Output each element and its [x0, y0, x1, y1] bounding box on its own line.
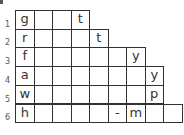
grid-cell[interactable] [108, 85, 128, 105]
grid-cell[interactable] [71, 29, 91, 49]
grid-cell[interactable]: g [15, 10, 35, 30]
grid-cell[interactable]: w [15, 85, 35, 105]
grid-cell[interactable] [52, 104, 72, 124]
grid-cell[interactable] [34, 10, 54, 30]
row-number-label: 1 [0, 20, 10, 29]
grid-cell[interactable] [52, 47, 72, 67]
grid-cell[interactable] [71, 66, 91, 86]
row-number-label: 4 [0, 76, 10, 85]
grid-cell[interactable]: p [145, 85, 165, 105]
grid-cell[interactable]: m [126, 104, 146, 124]
grid-cell[interactable] [34, 66, 54, 86]
grid-cell[interactable] [126, 85, 146, 105]
grid-cell[interactable] [52, 85, 72, 105]
grid-cell[interactable] [34, 104, 54, 124]
grid-cell[interactable] [34, 47, 54, 67]
grid-cell[interactable]: h [15, 104, 35, 124]
grid-cell[interactable] [89, 47, 109, 67]
corner-fragment [0, 0, 3, 4]
grid-cell[interactable] [52, 10, 72, 30]
row-number-label: 6 [0, 113, 10, 122]
grid-cell[interactable] [52, 66, 72, 86]
grid-cell[interactable]: t [71, 10, 91, 30]
grid-cell[interactable] [108, 47, 128, 67]
grid-cell[interactable]: r [15, 29, 35, 49]
grid-cell[interactable]: y [145, 66, 165, 86]
grid-cell[interactable] [89, 66, 109, 86]
grid-cell[interactable] [126, 66, 146, 86]
grid-cell[interactable] [108, 66, 128, 86]
grid-cell[interactable] [89, 85, 109, 105]
row-number-label: 3 [0, 57, 10, 66]
grid-cell[interactable]: t [89, 29, 109, 49]
grid-cell[interactable]: a [15, 66, 35, 86]
row-number-label: 2 [0, 38, 10, 47]
grid-cell[interactable] [52, 29, 72, 49]
grid-cell[interactable] [145, 104, 165, 124]
row-number-label: 5 [0, 95, 10, 104]
grid-cell[interactable] [71, 85, 91, 105]
grid-cell[interactable]: - [108, 104, 128, 124]
grid-cell[interactable]: y [126, 47, 146, 67]
grid-cell[interactable] [34, 85, 54, 105]
grid-cell[interactable] [71, 104, 91, 124]
grid-cell[interactable] [34, 29, 54, 49]
grid-cell[interactable] [71, 47, 91, 67]
grid-cell[interactable] [163, 104, 183, 124]
grid-cell[interactable]: f [15, 47, 35, 67]
grid-cell[interactable] [89, 104, 109, 124]
